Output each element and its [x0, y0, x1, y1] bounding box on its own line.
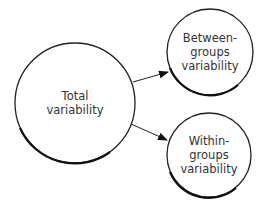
- node-between-label: Between- groups variability: [170, 31, 250, 73]
- node-total-label: Total variability: [35, 89, 115, 117]
- arrow-total-to-within: [131, 124, 167, 140]
- arrow-total-to-between: [133, 72, 168, 82]
- node-within-label: Within- groups variability: [169, 134, 249, 176]
